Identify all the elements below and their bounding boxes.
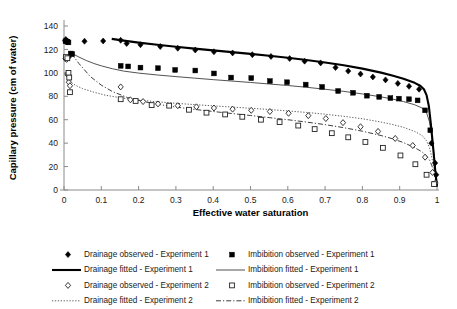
data-point-open-square [133, 99, 138, 104]
data-point-filled-square [249, 76, 254, 81]
data-point-open-square [346, 135, 351, 140]
data-point-open-square [398, 153, 403, 158]
x-tick-label: 0.4 [207, 195, 219, 205]
data-point-filled-square [336, 89, 341, 94]
data-point-filled-square [320, 85, 325, 90]
y-tick-label: 20 [49, 162, 59, 172]
x-tick-label: 0.3 [170, 195, 182, 205]
data-point-filled-square [230, 252, 235, 257]
x-axis-title: Effective water saturation [193, 207, 309, 218]
data-point-filled-square [415, 98, 420, 103]
data-point-filled-square [156, 66, 161, 71]
data-point-filled-square [285, 80, 290, 85]
data-point-filled-square [423, 108, 428, 113]
data-point-filled-square [397, 96, 402, 101]
data-point-filled-square [212, 71, 217, 76]
data-point-open-square [65, 56, 70, 61]
legend-label: Drainage observed - Experiment 1 [84, 250, 209, 259]
data-point-open-square [424, 172, 429, 177]
legend-entry[interactable]: Imbibition observed - Experiment 2 [230, 281, 375, 290]
data-point-filled-square [428, 128, 433, 133]
data-point-filled-square [351, 90, 356, 95]
data-point-open-square [67, 75, 72, 80]
data-point-filled-square [303, 82, 308, 87]
data-point-filled-square [126, 64, 131, 69]
data-point-open-square [118, 97, 123, 102]
y-tick-label: 60 [49, 115, 59, 125]
data-point-filled-square [388, 96, 393, 101]
y-tick-label: 40 [49, 138, 59, 148]
y-tick-label: 80 [49, 91, 59, 101]
data-point-open-square [312, 127, 317, 132]
data-point-open-square [240, 114, 245, 119]
chart-svg: 020406080100120140 00.10.20.30.40.50.60.… [0, 0, 457, 309]
y-axis-title: Capillary pressure (cm of water) [7, 36, 18, 181]
data-point-open-square [381, 145, 386, 150]
data-point-open-square [223, 112, 228, 117]
data-point-open-square [277, 120, 282, 125]
legend-label: Imbibition observed - Experiment 2 [248, 281, 375, 290]
legend-label: Imbibition observed - Experiment 1 [248, 250, 375, 259]
legend-label: Drainage fitted - Experiment 1 [84, 265, 193, 274]
data-point-open-square [167, 103, 172, 108]
capillary-pressure-chart: 020406080100120140 00.10.20.30.40.50.60.… [0, 0, 457, 309]
data-point-open-square [363, 140, 368, 145]
x-tick-label: 0.7 [319, 195, 331, 205]
data-point-filled-square [173, 68, 178, 73]
data-point-filled-square [229, 75, 234, 80]
x-tick-label: 0.6 [282, 195, 294, 205]
x-tick-label: 0.8 [356, 195, 368, 205]
data-point-open-square [204, 110, 209, 115]
y-tick-label: 100 [44, 68, 58, 78]
x-tick-label: 0 [62, 195, 67, 205]
x-tick-label: 0.5 [245, 195, 257, 205]
data-point-filled-square [193, 68, 198, 73]
data-point-filled-square [407, 97, 412, 102]
legend-label: Drainage observed - Experiment 2 [84, 281, 209, 290]
data-point-filled-square [138, 65, 143, 70]
data-point-open-square [432, 182, 437, 187]
x-tick-label: 0.9 [394, 195, 406, 205]
legend-entry[interactable]: Drainage observed - Experiment 2 [65, 281, 209, 290]
legend-entry[interactable]: Drainage observed - Experiment 1 [65, 250, 209, 259]
data-point-filled-square [66, 40, 71, 45]
data-point-filled-square [70, 52, 75, 57]
data-point-filled-square [364, 93, 369, 98]
legend-label: Drainage fitted - Experiment 2 [84, 296, 193, 305]
legend-label: Imbibition fitted - Experiment 2 [248, 296, 359, 305]
legend-label: Imbibition fitted - Experiment 1 [248, 265, 359, 274]
data-point-open-square [187, 107, 192, 112]
data-point-open-square [68, 90, 73, 95]
data-point-filled-square [267, 79, 272, 84]
data-point-filled-square [377, 94, 382, 99]
data-point-open-square [296, 123, 301, 128]
x-tick-label: 0.2 [133, 195, 145, 205]
data-point-open-square [149, 103, 154, 108]
y-tick-label: 120 [44, 45, 58, 55]
data-point-open-square [66, 70, 71, 75]
x-tick-label: 1 [435, 195, 440, 205]
data-point-open-square [413, 162, 418, 167]
y-tick-label: 0 [53, 185, 58, 195]
chart-background [0, 0, 457, 309]
data-point-filled-square [118, 63, 123, 68]
data-point-open-square [259, 117, 264, 122]
legend-entry[interactable]: Imbibition observed - Experiment 1 [230, 250, 375, 259]
data-point-open-square [230, 283, 235, 288]
x-tick-label: 0.1 [95, 195, 107, 205]
data-point-open-square [329, 131, 334, 136]
y-tick-label: 140 [44, 21, 58, 31]
